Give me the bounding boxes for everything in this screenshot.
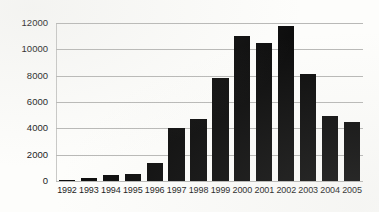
bar (256, 43, 272, 181)
x-axis-tick-label: 1998 (188, 185, 210, 195)
x-axis: 1992199319941995199619971998199920002001… (56, 185, 363, 201)
y-axis-tick-label: 2000 (0, 149, 48, 160)
bar (234, 36, 250, 181)
x-axis-tick-label: 2003 (297, 185, 319, 195)
bar-series (56, 23, 363, 181)
bar (168, 128, 184, 181)
bar (81, 178, 97, 181)
x-axis-tick-label: 2000 (231, 185, 253, 195)
bar (212, 78, 228, 181)
y-axis-tick-label: 4000 (0, 122, 48, 133)
x-axis-tick-label: 1999 (210, 185, 232, 195)
bar (300, 74, 316, 181)
bar (125, 174, 141, 181)
x-axis-tick-label: 2002 (275, 185, 297, 195)
x-axis-tick-label: 1995 (122, 185, 144, 195)
x-axis-tick-label: 2005 (341, 185, 363, 195)
x-axis-tick-label: 1993 (78, 185, 100, 195)
bar (147, 163, 163, 181)
x-axis-tick-label: 1997 (166, 185, 188, 195)
bar (103, 175, 119, 181)
gridline (56, 181, 363, 182)
x-axis-tick-label: 2004 (319, 185, 341, 195)
bar (190, 119, 206, 181)
bar (322, 116, 338, 181)
bar (278, 26, 294, 181)
bar-chart: 020004000600080001000012000 199219931994… (0, 0, 379, 212)
y-axis-tick-label: 6000 (0, 96, 48, 107)
bar (344, 122, 360, 181)
y-axis-tick-label: 12000 (0, 17, 48, 28)
y-axis-tick-label: 10000 (0, 43, 48, 54)
x-axis-tick-label: 1994 (100, 185, 122, 195)
x-axis-tick-label: 2001 (253, 185, 275, 195)
y-axis-tick-label: 0 (0, 175, 48, 186)
x-axis-tick-label: 1996 (144, 185, 166, 195)
bar (59, 180, 75, 182)
x-axis-tick-label: 1992 (56, 185, 78, 195)
y-axis-tick-label: 8000 (0, 70, 48, 81)
